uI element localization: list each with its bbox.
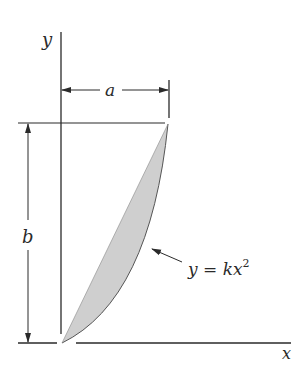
dimension-a-label: a [105,80,115,100]
dimension-b-label: b [22,226,34,247]
equation-exponent: 2 [243,257,250,270]
equation-main: y = kx [187,259,243,279]
curve-equation-label: y = kx2 [187,257,250,279]
diagram-canvas: a b y x y = kx2 [0,0,308,367]
curve-leader-arrow [152,249,182,262]
x-axis-label: x [282,344,291,363]
straight-edge [62,124,168,343]
y-axis-label: y [41,29,53,50]
